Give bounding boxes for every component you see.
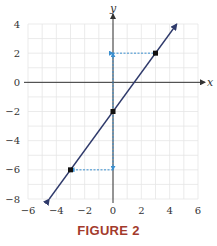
svg-text:4: 4 — [14, 19, 20, 30]
svg-text:0: 0 — [110, 205, 116, 216]
svg-text:2: 2 — [138, 205, 144, 216]
tick-labels: −6−4−20246420−2−4−6−8 — [5, 19, 201, 217]
svg-text:−6: −6 — [21, 205, 36, 216]
figure-caption: FIGURE 2 — [0, 223, 217, 238]
svg-text:y: y — [109, 2, 117, 15]
svg-text:−8: −8 — [5, 194, 20, 205]
svg-text:6: 6 — [195, 205, 201, 216]
svg-text:0: 0 — [14, 77, 20, 88]
svg-text:4: 4 — [166, 205, 172, 216]
svg-text:x: x — [207, 76, 214, 89]
svg-text:−6: −6 — [5, 164, 20, 175]
svg-text:−4: −4 — [5, 135, 20, 146]
svg-text:−2: −2 — [5, 106, 20, 117]
svg-text:2: 2 — [14, 48, 20, 59]
line-chart: xy −6−4−20246420−2−4−6−8 — [0, 0, 217, 220]
svg-text:−4: −4 — [49, 205, 64, 216]
svg-text:−2: −2 — [77, 205, 92, 216]
